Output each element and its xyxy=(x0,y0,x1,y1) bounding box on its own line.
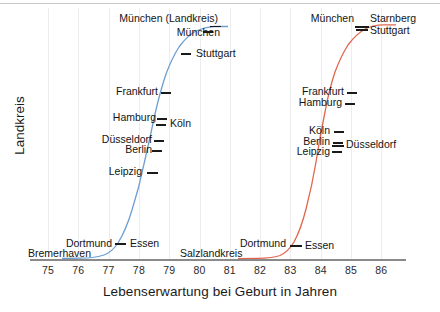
annotation-stuttgart-blue: Stuttgart xyxy=(196,48,266,59)
xtick-86: 86 xyxy=(366,264,396,276)
y-axis-label: Landkreis xyxy=(12,71,27,181)
annotation-tick-koeln-red xyxy=(334,131,344,133)
annotation-salzlandkreis-red: Salzlandkreis xyxy=(180,248,266,259)
x-axis-line xyxy=(30,259,406,261)
annotation-tick-hamburg-blue xyxy=(157,118,167,120)
annotation-tick-muenchen-red xyxy=(355,26,369,28)
annotation-essen-blue: Essen xyxy=(130,238,174,249)
annotation-tick-koeln-blue xyxy=(156,124,166,126)
annotation-bremerhaven-blue: Bremerhaven xyxy=(28,248,108,259)
annotation-tick-stuttgart-red xyxy=(356,29,368,31)
annotation-tick-duesseldorf-blue xyxy=(154,140,164,142)
annotation-tick-essen-blue xyxy=(115,243,126,245)
annotation-muenchen-landkreis: München (Landkreis) xyxy=(106,13,218,24)
annotation-koeln-blue: Köln xyxy=(170,118,210,129)
annotation-leipzig-blue: Leipzig xyxy=(82,166,142,177)
xtick-84: 84 xyxy=(306,264,336,276)
annotation-starnberg-red: Starnberg xyxy=(370,13,436,24)
annotation-tick-muenchen-blue xyxy=(203,31,213,33)
annotation-tick-duesseldorf-red xyxy=(332,145,344,147)
annotation-berlin-blue: Berlin xyxy=(90,144,152,155)
xtick-82: 82 xyxy=(245,264,275,276)
annotation-essen-red: Essen xyxy=(305,240,349,251)
annotation-leipzig-red: Leipzig xyxy=(278,146,330,157)
annotation-muenchen-blue: München xyxy=(140,27,220,38)
annotation-tick-frankfurt-red xyxy=(347,92,357,94)
xtick-81: 81 xyxy=(215,264,245,276)
annotation-tick-leipzig-blue xyxy=(147,172,158,174)
annotation-tick-essen-red xyxy=(290,245,302,247)
xtick-78: 78 xyxy=(124,264,154,276)
annotation-frankfurt-blue: Frankfurt xyxy=(86,86,158,97)
xtick-75: 75 xyxy=(33,264,63,276)
xtick-79: 79 xyxy=(154,264,184,276)
annotation-hamburg-red: Hamburg xyxy=(270,97,342,108)
annotation-tick-stuttgart-blue xyxy=(181,53,191,55)
xtick-77: 77 xyxy=(94,264,124,276)
annotation-tick-frankfurt-blue xyxy=(161,92,171,94)
annotation-tick-berlin-blue xyxy=(152,150,162,152)
annotation-duesseldorf-red: Düsseldorf xyxy=(346,139,418,150)
annotation-muenchen-red: München xyxy=(296,13,354,24)
xtick-83: 83 xyxy=(275,264,305,276)
xtick-85: 85 xyxy=(336,264,366,276)
annotation-hamburg-blue: Hamburg xyxy=(84,112,156,123)
xtick-76: 76 xyxy=(63,264,93,276)
annotation-tick-leipzig-red xyxy=(332,151,342,153)
xtick-80: 80 xyxy=(185,264,215,276)
annotation-tick-berlin-red xyxy=(333,142,343,144)
annotation-stuttgart-red: Stuttgart xyxy=(370,25,432,36)
annotation-tick-hamburg-red xyxy=(345,103,355,105)
x-axis-label: Lebenserwartung bei Geburt in Jahren xyxy=(0,284,440,299)
chart-figure: 75 76 77 78 79 80 81 82 83 84 85 86 Lebe… xyxy=(0,0,440,312)
